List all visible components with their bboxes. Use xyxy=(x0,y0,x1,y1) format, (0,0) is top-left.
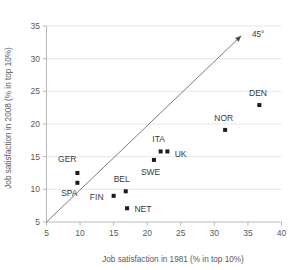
data-point-fin xyxy=(112,194,116,198)
y-tick-label-10: 10 xyxy=(31,184,41,194)
x-tick-label-35: 35 xyxy=(243,228,253,238)
data-label-spa: SPA xyxy=(61,188,78,198)
data-label-uk: UK xyxy=(175,149,187,159)
data-label-bel: BEL xyxy=(114,174,130,184)
data-point-ger xyxy=(75,171,79,175)
data-point-ita xyxy=(159,149,163,153)
data-point-spa xyxy=(75,181,79,185)
data-point-nor xyxy=(223,128,227,132)
y-tick-label-25: 25 xyxy=(31,86,41,96)
gridlines xyxy=(47,26,282,189)
y-tick-label-15: 15 xyxy=(31,152,41,162)
data-point-swe xyxy=(152,158,156,162)
data-label-den: DEN xyxy=(249,88,267,98)
data-label-ita: ITA xyxy=(152,134,165,144)
chart-canvas: 510152025303540 5101520253035 45° GERSPA… xyxy=(0,0,293,270)
y-axis-title: Job satisfaction in 2008 (% in top 10%) xyxy=(4,47,13,189)
data-label-ger: GER xyxy=(58,154,76,164)
y-tick-label-30: 30 xyxy=(31,54,41,64)
x-tick-label-40: 40 xyxy=(277,228,287,238)
data-label-nor: NOR xyxy=(214,113,233,123)
reference-line-label: 45° xyxy=(252,30,264,39)
y-tick-label-20: 20 xyxy=(31,119,41,129)
x-axis-ticks: 510152025303540 xyxy=(44,222,286,238)
x-tick-label-5: 5 xyxy=(44,228,49,238)
y-tick-label-35: 35 xyxy=(31,21,41,31)
x-tick-label-10: 10 xyxy=(75,228,85,238)
y-tick-label-5: 5 xyxy=(35,217,40,227)
x-tick-label-30: 30 xyxy=(210,228,220,238)
scatter-chart: 510152025303540 5101520253035 45° GERSPA… xyxy=(0,0,293,270)
y-axis-ticks: 5101520253035 xyxy=(31,21,47,227)
x-axis-title: Job satisfaction in 1981 (% in top 10%) xyxy=(102,255,244,264)
x-tick-label-20: 20 xyxy=(142,228,152,238)
data-point-net xyxy=(125,206,129,210)
data-label-net: NET xyxy=(134,204,151,214)
x-tick-label-15: 15 xyxy=(109,228,119,238)
data-point-den xyxy=(257,103,261,107)
x-tick-label-25: 25 xyxy=(176,228,186,238)
data-point-bel xyxy=(124,189,128,193)
data-point-uk xyxy=(165,149,169,153)
data-label-swe: SWE xyxy=(141,167,161,177)
data-label-fin: FIN xyxy=(90,192,104,202)
